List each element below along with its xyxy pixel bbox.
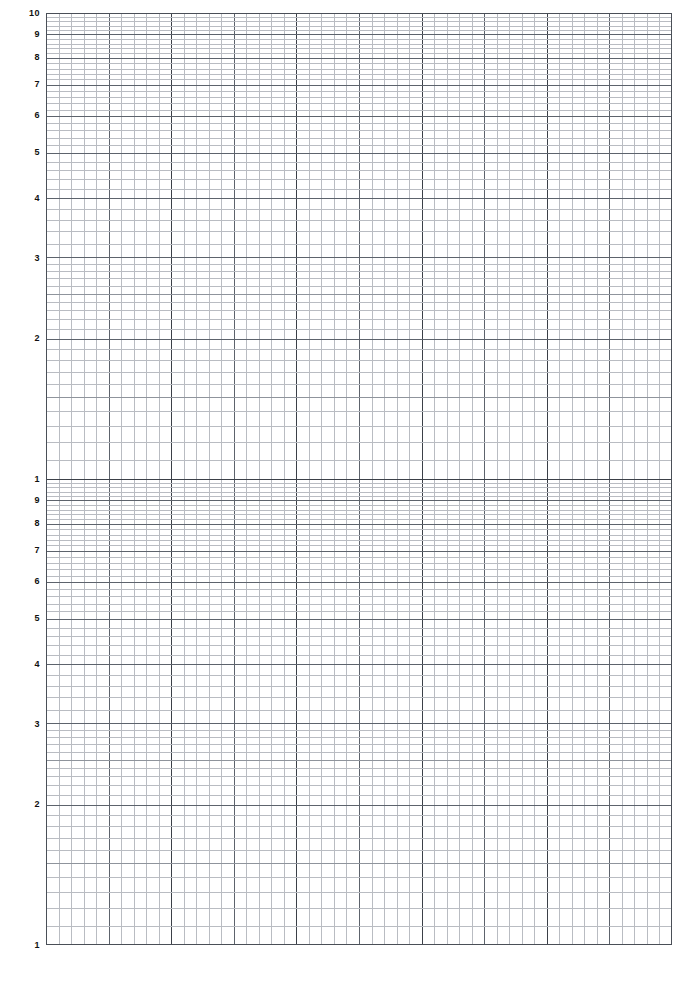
y-axis-tick-label: 7 xyxy=(34,546,40,555)
y-axis-tick-label: 1 xyxy=(34,475,40,484)
grid-svg xyxy=(46,13,672,945)
y-axis-tick-label: 9 xyxy=(34,30,40,39)
y-axis-tick-label: 7 xyxy=(34,80,40,89)
y-axis-tick-label: 8 xyxy=(34,519,40,528)
y-axis-label-column: 10987654321987654321 xyxy=(0,0,46,999)
log-grid-plot-area xyxy=(46,13,672,945)
y-axis-tick-label: 6 xyxy=(34,111,40,120)
y-axis-tick-label: 5 xyxy=(34,614,40,623)
y-axis-tick-label: 2 xyxy=(34,334,40,343)
y-axis-tick-label: 5 xyxy=(34,148,40,157)
y-axis-tick-label: 10 xyxy=(29,9,40,18)
y-axis-tick-label: 4 xyxy=(34,194,40,203)
y-axis-tick-label: 8 xyxy=(34,53,40,62)
y-axis-tick-label: 4 xyxy=(34,660,40,669)
y-axis-tick-label: 2 xyxy=(34,800,40,809)
y-axis-tick-label: 1 xyxy=(34,941,40,950)
y-axis-tick-label: 9 xyxy=(34,496,40,505)
graph-paper-sheet: 10987654321987654321 xyxy=(0,0,697,999)
y-axis-tick-label: 3 xyxy=(34,254,40,263)
y-axis-tick-label: 3 xyxy=(34,720,40,729)
y-axis-tick-label: 6 xyxy=(34,577,40,586)
